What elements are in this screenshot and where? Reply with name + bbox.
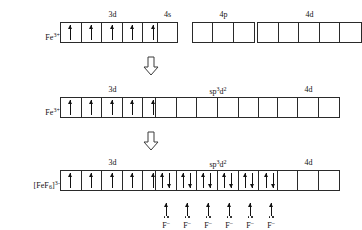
orbital-group-sp3d2: sp3d2F–F–F–F–F–F– <box>155 170 281 191</box>
arrow-head <box>222 173 226 177</box>
orbital-box <box>197 171 218 190</box>
electron-arrow-down <box>229 173 234 188</box>
ligand-charge: – <box>188 220 191 226</box>
electron-arrow-up <box>130 173 135 188</box>
species-charge: 3+ <box>53 107 60 113</box>
ligand-charge: – <box>230 220 233 226</box>
orbital-group-label: 3d <box>60 85 165 94</box>
electron-arrow-up <box>89 173 94 188</box>
orbital-box-set <box>257 22 362 43</box>
arrow-head <box>160 173 164 177</box>
electron-arrow-up <box>68 25 73 40</box>
orbital-box <box>258 23 279 42</box>
orbital-group-3d: 3d <box>60 22 165 43</box>
electron-arrow-up <box>160 173 165 188</box>
orbital-box <box>320 23 341 42</box>
lone-pair-donation-arrow-icon <box>164 203 169 216</box>
lone-pair-donation-arrow-icon <box>227 203 232 216</box>
arrow-head <box>264 173 268 177</box>
electron-arrow-down <box>271 173 276 188</box>
orbital-group-4s: 4s <box>157 22 178 43</box>
orbital-group-label: 4s <box>157 10 178 19</box>
orbital-box <box>279 23 300 42</box>
orbital-group-label: 3d <box>60 158 165 167</box>
ligand-charge: – <box>272 220 275 226</box>
orbital-group-4p: 4p <box>192 22 255 43</box>
orbital-box <box>234 23 254 42</box>
electron-arrow-up <box>110 173 115 188</box>
orbital-box <box>278 171 298 190</box>
lone-pair-dots-icon <box>226 216 233 219</box>
ligand-charge: – <box>167 220 170 226</box>
orbital-box <box>102 23 123 42</box>
arrow-head <box>68 100 72 104</box>
arrow-head <box>269 203 273 207</box>
configuration-row: Fe3+3dsp3d24d <box>0 85 360 129</box>
orbital-box <box>193 23 213 42</box>
orbital-box <box>156 98 177 117</box>
orbital-box <box>102 98 123 117</box>
lone-pair-dots-icon <box>163 216 170 219</box>
orbital-group-3d: 3d <box>60 170 165 191</box>
orbital-box <box>61 98 82 117</box>
orbital-box-set <box>277 170 340 191</box>
ligand-charge: – <box>251 220 254 226</box>
lone-pair-donation-arrow-icon <box>248 203 253 216</box>
lone-pair-dots-icon <box>268 216 275 219</box>
orbital-group-4d: 4d <box>277 170 340 191</box>
orbital-box <box>340 23 361 42</box>
orbital-box <box>218 171 239 190</box>
electron-arrow-up <box>130 100 135 115</box>
orbital-group-label: 4d <box>257 10 362 19</box>
electron-arrow-down <box>208 173 213 188</box>
species-label: Fe3+ <box>8 105 60 118</box>
arrow-head <box>89 25 93 29</box>
lone-pair-dots-icon <box>184 216 191 219</box>
electron-arrow-down <box>188 173 193 188</box>
ligand-donation: F– <box>155 203 177 230</box>
lone-pair-dots-icon <box>205 216 212 219</box>
orbital-group-4d: 4d <box>257 22 362 43</box>
ligand-donation: F– <box>197 203 219 230</box>
electron-arrow-up <box>110 25 115 40</box>
arrow-head <box>130 173 134 177</box>
arrow-head <box>68 173 72 177</box>
arrow-head <box>206 203 210 207</box>
arrow-head <box>164 203 168 207</box>
electron-arrow-up <box>130 25 135 40</box>
configuration-row: Fe3+3d4s4p4d <box>0 10 360 54</box>
arrow-head <box>185 203 189 207</box>
arrow-head <box>243 173 247 177</box>
arrow-head <box>227 203 231 207</box>
orbital-group-label: 4p <box>192 10 255 19</box>
orbital-box <box>123 23 144 42</box>
electron-arrow-up <box>264 173 269 188</box>
orbital-box <box>213 23 233 42</box>
orbital-box <box>239 98 260 117</box>
electron-arrow-up <box>68 173 73 188</box>
electron-pair <box>201 171 213 190</box>
orbital-group-label: sp3d2 <box>155 85 281 96</box>
orbital-box <box>278 98 298 117</box>
ligand-donation: F– <box>176 203 198 230</box>
arrow-head <box>201 173 205 177</box>
electron-pair <box>181 171 193 190</box>
orbital-box <box>123 171 144 190</box>
orbital-box-set <box>157 22 178 43</box>
lone-pair-donation-arrow-icon <box>206 203 211 216</box>
electron-arrow-up <box>110 100 115 115</box>
orbital-box <box>298 98 318 117</box>
orbital-group-label: sp3d2 <box>155 158 281 169</box>
orbital-group-3d: 3d <box>60 97 165 118</box>
lone-pair-donation-arrow-icon <box>269 203 274 216</box>
arrow-head <box>68 25 72 29</box>
orbital-box-set <box>60 97 165 118</box>
orbital-box <box>102 171 123 190</box>
ligand-label: F– <box>260 219 282 230</box>
ligand-donation: F– <box>218 203 240 230</box>
arrow-head <box>229 184 233 188</box>
orbital-box <box>319 98 339 117</box>
arrow-head <box>167 184 171 188</box>
transition-arrow-down-icon <box>143 131 159 151</box>
lone-pair-dots-icon <box>247 216 254 219</box>
